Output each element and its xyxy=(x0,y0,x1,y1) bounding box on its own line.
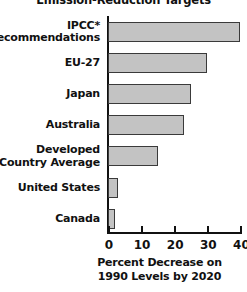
bar-row: EU-27 xyxy=(0,47,247,78)
bar-row: Canada xyxy=(0,203,247,234)
bar xyxy=(108,146,158,166)
x-axis-tick-label: 0 xyxy=(94,238,124,252)
x-axis-title-line-1: Percent Decrease on xyxy=(72,256,247,270)
bar xyxy=(108,22,240,42)
x-axis-tick xyxy=(207,226,209,234)
x-axis-tick-label: 40 xyxy=(226,238,247,252)
bar-row: Developed Country Average xyxy=(0,141,247,172)
bar xyxy=(108,84,191,104)
category-label: Australia xyxy=(0,119,100,132)
x-axis-title-line-2: 1990 Levels by 2020 xyxy=(72,270,247,284)
category-label: Japan xyxy=(0,88,100,101)
x-axis-tick-label: 20 xyxy=(160,238,190,252)
x-axis-tick xyxy=(174,226,176,234)
bar xyxy=(108,115,184,135)
category-label: Developed Country Average xyxy=(0,144,100,169)
x-axis-tick-label: 30 xyxy=(193,238,223,252)
plot-area: IPCC* RecommendationsEU-27JapanAustralia… xyxy=(0,0,247,292)
category-label: Canada xyxy=(0,212,100,225)
category-label: IPCC* Recommendations xyxy=(0,19,100,44)
bar-row: Japan xyxy=(0,78,247,109)
x-axis-tick xyxy=(240,226,242,234)
category-label: United States xyxy=(0,181,100,194)
category-label: EU-27 xyxy=(0,56,100,69)
x-axis-title: Percent Decrease on 1990 Levels by 2020 xyxy=(72,256,247,284)
x-axis-tick xyxy=(108,226,110,234)
bar-row: United States xyxy=(0,172,247,203)
x-axis-tick-label: 10 xyxy=(127,238,157,252)
emission-reduction-targets-chart: Emission-Reduction Targets IPCC* Recomme… xyxy=(0,0,247,292)
bar xyxy=(108,53,207,73)
bar-row: Australia xyxy=(0,110,247,141)
bar xyxy=(108,178,118,198)
x-axis-tick xyxy=(141,226,143,234)
bar-row: IPCC* Recommendations xyxy=(0,16,247,47)
